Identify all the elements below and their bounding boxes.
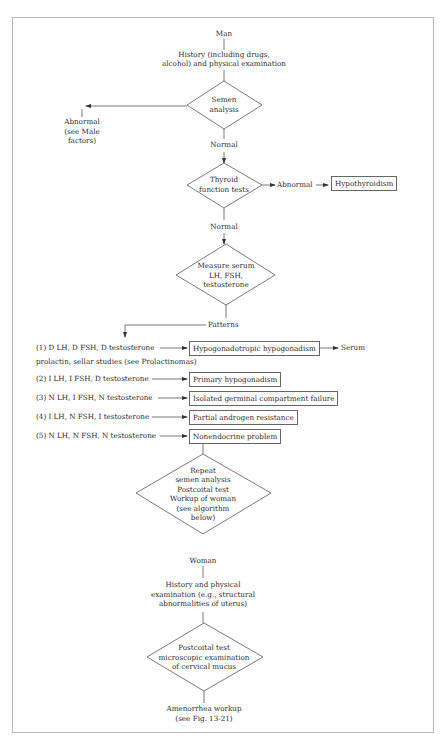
postcoital-line2: microscopic examination [159, 652, 250, 662]
repeat-line2: semen analysis [170, 475, 236, 484]
normal-label-1: Normal [210, 140, 237, 150]
semen-line1: Semen [209, 95, 238, 105]
pattern-4-label: (4) I LH, N FSH, I testosterone [36, 412, 149, 422]
abnormal-line3: factors) [64, 136, 100, 146]
pattern-3-result-box: Isolated germinal compartment failure [189, 391, 338, 406]
semen-analysis-label: Semen analysis [209, 95, 238, 114]
outcome-line2: (see Fig. 13-21) [166, 714, 241, 724]
woman-history-label: History and physical examination (e.g., … [151, 580, 255, 609]
woman-history-line1: History and physical [151, 580, 255, 590]
abnormal-line2: (see Male [64, 127, 100, 137]
repeat-line5: (see algorithm [170, 503, 236, 512]
postcoital-line3: of cervical mucus [159, 662, 250, 672]
repeat-line6: below) [170, 513, 236, 522]
woman-history-line2: examination (e.g., structural [151, 590, 255, 600]
pattern-1-result-box: Hypogonadotropic hypogonadism [189, 341, 320, 356]
hypothyroidism-box: Hypothyroidism [331, 176, 397, 191]
woman-history-line3: abnormalities of uterus) [151, 599, 255, 609]
postcoital-label: Postcoital test microscopic examination … [159, 643, 250, 672]
repeat-line4: Workup of woman [170, 494, 236, 503]
pattern-5-result-box: Nonendocrine problem [189, 429, 281, 444]
pattern-1-continuation: prolactin, sellar studies (see Prolactin… [36, 357, 196, 367]
outcome-line1: Amenorrhea workup [166, 704, 241, 714]
thyroid-line1: Thyroid [199, 175, 249, 185]
measure-line1: Measure serum [197, 261, 254, 271]
abnormal-line1: Abnormal [64, 117, 100, 127]
normal-label-2: Normal [210, 222, 237, 232]
thyroid-label: Thyroid function tests [199, 175, 249, 194]
thyroid-abnormal-label: Abnormal [277, 180, 313, 190]
semen-abnormal-label: Abnormal (see Male factors) [64, 117, 100, 146]
pattern-3-label: (3) N LH, I FSH, N testosterone [36, 393, 153, 403]
man-start-label: Man [216, 29, 232, 39]
man-history-line2: alcohol) and physical examination [162, 59, 286, 69]
measure-serum-label: Measure serum LH, FSH, testosterone [197, 261, 254, 290]
repeat-line3: Postcoital test [170, 485, 236, 494]
pattern-1-after: Serum [341, 343, 365, 353]
pattern-1-label: (1) D LH, D FSH, D testosterone [36, 343, 155, 353]
pattern-2-result-box: Primary hypogonadism [189, 372, 281, 387]
patterns-label: Patterns [208, 320, 239, 330]
woman-start-label: Woman [190, 556, 217, 566]
amenorrhea-outcome-label: Amenorrhea workup (see Fig. 13-21) [166, 704, 241, 723]
semen-line2: analysis [209, 105, 238, 115]
pattern-2-label: (2) I LH, I FSH, D testosterone [36, 374, 149, 384]
pattern-5-label: (5) N LH, N FSH, N testosterone [36, 431, 156, 441]
repeat-line1: Repeat [170, 466, 236, 475]
thyroid-line2: function tests [199, 185, 249, 195]
repeat-label: Repeat semen analysis Postcoital test Wo… [170, 466, 236, 522]
measure-line3: testosterone [197, 280, 254, 290]
pattern-4-result-box: Partial androgen resistance [189, 410, 298, 425]
measure-line2: LH, FSH, [197, 270, 254, 280]
postcoital-line1: Postcoital test [159, 643, 250, 653]
